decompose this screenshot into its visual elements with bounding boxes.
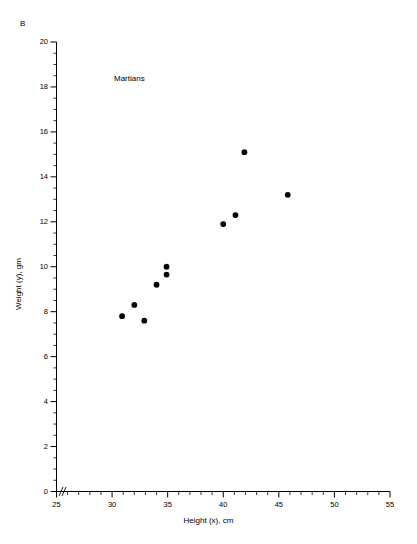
- y-tick-label: 18: [22, 82, 48, 91]
- x-tick-label: 45: [265, 500, 293, 509]
- y-tick-label: 0: [22, 487, 48, 496]
- x-tick-group: [57, 492, 391, 498]
- y-tick-group: [51, 42, 57, 492]
- data-point: [141, 318, 147, 324]
- y-tick-label: 16: [22, 127, 48, 136]
- y-tick-label: 8: [22, 307, 48, 316]
- panel-label-b: B: [20, 19, 26, 28]
- series-label-martians: Martians: [114, 74, 145, 83]
- y-tick-label: 12: [22, 217, 48, 226]
- data-point: [164, 264, 170, 270]
- y-tick-label: 20: [22, 37, 48, 46]
- axes-group: [57, 42, 391, 496]
- y-tick-label: 14: [22, 172, 48, 181]
- y-tick-label: 2: [22, 442, 48, 451]
- x-tick-label: 50: [320, 500, 348, 509]
- plot-canvas: [0, 0, 417, 544]
- data-point: [285, 192, 291, 198]
- y-tick-label: 6: [22, 352, 48, 361]
- x-tick-label: 55: [376, 500, 404, 509]
- data-point: [154, 282, 160, 288]
- data-point-group: [119, 149, 290, 323]
- x-tick-label: 30: [98, 500, 126, 509]
- data-point: [233, 212, 239, 218]
- scatter-plot-figure: B Martians Weight (y), gm Height (x), cm…: [0, 0, 417, 544]
- data-point: [131, 302, 137, 308]
- x-axis-title: Height (x), cm: [0, 516, 417, 525]
- y-tick-label: 4: [22, 397, 48, 406]
- x-tick-label: 35: [154, 500, 182, 509]
- data-point: [164, 272, 170, 278]
- data-point: [241, 149, 247, 155]
- data-point: [220, 221, 226, 227]
- x-tick-label: 25: [43, 500, 71, 509]
- data-point: [119, 313, 125, 319]
- x-tick-label: 40: [209, 500, 237, 509]
- y-tick-label: 10: [22, 262, 48, 271]
